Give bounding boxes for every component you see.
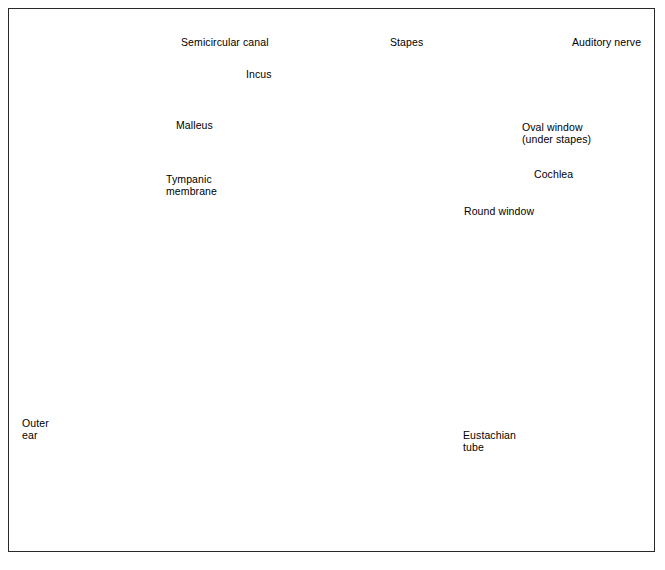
label-outer-ear-line2: ear (22, 429, 37, 442)
label-tympanic-membrane-line2: membrane (166, 185, 217, 198)
label-round-window: Round window (464, 205, 534, 218)
label-cochlea: Cochlea (534, 168, 573, 181)
label-malleus: Malleus (176, 119, 213, 132)
figure-border (8, 8, 655, 552)
label-oval-window-line2: (under stapes) (522, 133, 591, 146)
label-eustachian-tube-line2: tube (463, 441, 484, 454)
figure-page: Semicircular canal Incus Malleus Tympani… (0, 0, 665, 570)
label-incus: Incus (246, 68, 272, 81)
label-tympanic-membrane-line1: Tympanic (166, 173, 212, 186)
label-outer-ear-line1: Outer (22, 417, 49, 430)
label-oval-window-line1: Oval window (522, 121, 583, 134)
label-auditory-nerve: Auditory nerve (572, 36, 641, 49)
label-stapes: Stapes (390, 36, 423, 49)
label-eustachian-tube-line1: Eustachian (463, 429, 516, 442)
label-semicircular-canal: Semicircular canal (181, 36, 269, 49)
